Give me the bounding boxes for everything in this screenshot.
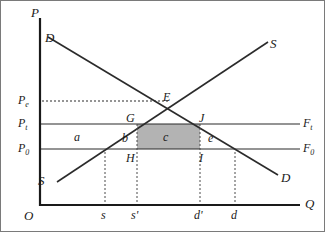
floor-label-ft-subscript: t — [310, 123, 312, 132]
region-label-a: a — [74, 131, 80, 143]
point-label-h: H — [126, 152, 135, 164]
price-label-pt: Pt — [18, 117, 28, 129]
supply-curve-label-bottom: S — [38, 174, 45, 187]
price-label-pt-subscript: t — [25, 123, 27, 132]
region-label-b: b — [122, 132, 128, 144]
demand-curve-label-bottom: D — [281, 171, 290, 184]
origin-label: O — [24, 209, 33, 222]
q-axis-label: Q — [305, 197, 314, 210]
tick-label-d-prime: d' — [194, 209, 203, 221]
price-label-pe: Pe — [18, 94, 29, 106]
price-label-p0: P0 — [18, 142, 29, 154]
region-label-c: c — [163, 131, 168, 143]
tick-label-s-prime: s' — [131, 209, 138, 221]
p-axis-label: P — [31, 6, 39, 19]
point-label-e: E — [163, 91, 170, 103]
price-label-pe-subscript: e — [25, 100, 29, 109]
floor-label-f0: F0 — [303, 142, 314, 154]
tick-label-d: d — [231, 209, 237, 221]
floor-label-ft: Ft — [303, 117, 313, 129]
point-label-g: G — [126, 112, 135, 124]
floor-label-f0-subscript: 0 — [310, 148, 314, 157]
supply-curve — [57, 42, 268, 182]
tick-label-s: s — [101, 209, 106, 221]
region-label-e: e — [208, 132, 213, 144]
price-label-p0-subscript: 0 — [25, 148, 29, 157]
point-label-j: J — [199, 112, 204, 124]
supply-curve-label-top: S — [270, 37, 277, 50]
economics-supply-demand-figure: P Q O D S S D Pe Pt P0 Ft F0 E G J H I a… — [0, 0, 325, 232]
point-label-i: I — [199, 152, 203, 164]
demand-curve-label-top: D — [45, 31, 54, 44]
shaded-region-c — [137, 124, 200, 149]
